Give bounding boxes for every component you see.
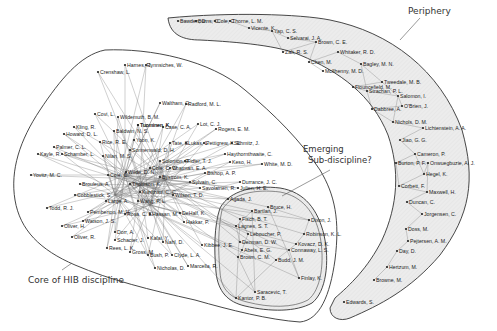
node-marker	[407, 240, 409, 242]
node-label: Case, C. A.	[165, 124, 191, 130]
node-marker	[137, 200, 139, 202]
node-marker	[159, 176, 161, 178]
node-label: Brown, C. E.	[318, 39, 347, 45]
node-label: Yoon, K.	[136, 137, 155, 143]
node-label: Schamber, L.	[64, 151, 95, 157]
node-marker	[179, 212, 181, 214]
node-marker	[397, 95, 399, 97]
node-marker	[159, 160, 161, 162]
node-marker	[343, 301, 345, 303]
node-label: Keso, H.	[232, 159, 252, 165]
node-marker	[308, 61, 310, 63]
node-marker	[185, 103, 187, 105]
node-label: Salomon, I.	[400, 93, 426, 99]
node-marker	[423, 173, 425, 175]
node-marker	[421, 213, 423, 215]
node-marker	[133, 139, 135, 141]
node-marker	[237, 187, 239, 189]
node-label: McIlhenny, M. D.	[325, 68, 364, 74]
node-marker	[251, 210, 253, 212]
node-label: Day, D.	[399, 248, 416, 254]
node-marker	[261, 163, 263, 165]
node-label: Pejtersen, A. M.	[410, 238, 447, 244]
core-label: Core of HIB discipline	[28, 275, 124, 285]
node-marker	[129, 251, 131, 253]
node-label: Radford, M. L.	[188, 101, 221, 107]
node-label: Yovitz, M. C.	[33, 172, 62, 178]
emerging-label-line2: Sub-discipline?	[308, 155, 372, 165]
node-marker	[366, 90, 368, 92]
node-label: Onwuegbuzie, A. J.	[430, 160, 475, 166]
node-marker	[46, 207, 48, 209]
node-label: Edwards, S.	[346, 299, 374, 305]
node-label: Clyde, L. A.	[174, 252, 201, 258]
node-marker	[184, 160, 186, 162]
node-marker	[79, 183, 81, 185]
node-marker	[107, 174, 109, 176]
node-marker	[37, 153, 39, 155]
node-label: Lagnes, S. T.	[238, 223, 268, 229]
node-marker	[295, 243, 297, 245]
node-label: Whitaker, R. D.	[340, 49, 375, 55]
node-label: Abels, E. G.	[244, 247, 272, 253]
node-label: Corbett, F.	[401, 183, 425, 189]
node-marker	[187, 265, 189, 267]
node-marker	[199, 187, 201, 189]
node-label: Agada, J.	[230, 196, 252, 202]
node-label: Watson, J. S.	[85, 218, 116, 224]
node-marker	[195, 20, 197, 22]
node-marker	[129, 149, 131, 151]
node-label: Denman, D. W.	[242, 239, 277, 245]
node-marker	[102, 155, 104, 157]
node-label: Cobblestick, S.	[77, 192, 112, 198]
node-label: Wildemuth, B. M.	[120, 114, 160, 120]
node-marker	[74, 194, 76, 196]
node-marker	[371, 108, 373, 110]
periphery-label: Periphery	[408, 6, 451, 16]
node-label: Julien, H. E.	[240, 185, 268, 191]
node-marker	[185, 142, 187, 144]
node-marker	[235, 297, 237, 299]
node-label: Nichols, D. M.	[395, 119, 427, 125]
periphery-callout-line	[400, 18, 420, 40]
emerging-label-line1: Emerging	[303, 144, 344, 154]
node-marker	[352, 86, 354, 88]
node-marker	[117, 116, 119, 118]
node-label: Bartlan, J.	[254, 208, 277, 214]
node-label: DeHalf, K.	[182, 210, 206, 216]
node-marker	[63, 133, 65, 135]
node-label: Chatman, E. A.	[172, 165, 207, 171]
node-marker	[241, 249, 243, 251]
node-marker	[169, 142, 171, 144]
node-marker	[106, 247, 108, 249]
node-marker	[169, 167, 171, 169]
node-label: Dorr, A.	[117, 229, 134, 235]
node-label: Palmer, C. L.	[56, 144, 86, 150]
core-callout-line	[62, 263, 72, 270]
node-marker	[239, 181, 241, 183]
node-label: Marcella, R.	[190, 263, 218, 269]
node-marker	[237, 256, 239, 258]
node-marker	[303, 233, 305, 235]
node-marker	[113, 130, 115, 132]
node-marker	[414, 153, 416, 155]
node-label: Large, A.	[108, 198, 129, 204]
node-label: Kayle, R.	[40, 151, 61, 157]
node-label: Connaway, L. S.	[291, 247, 329, 253]
node-label: Oliver, R.	[74, 234, 95, 240]
node-label: Duncan, C.	[409, 199, 435, 205]
node-label: Thorne, L. M.	[232, 18, 263, 24]
node-marker	[275, 259, 277, 261]
node-label: Leboucher, P.	[250, 231, 281, 237]
node-marker	[224, 153, 226, 155]
node-label: Howard, D. L.	[66, 131, 98, 137]
node-label: Bystrom, K.	[162, 174, 189, 180]
node-label: Robinson, K. L.	[306, 231, 341, 237]
node-label: Fisch, B. T.	[242, 216, 268, 222]
node-marker	[396, 250, 398, 252]
node-label: Burton, P. F.	[398, 160, 426, 166]
node-label: Oliver, H.	[64, 223, 85, 229]
node-marker	[87, 211, 89, 213]
node-label: Wilde, D. N.	[128, 169, 156, 175]
node-label: Bush, P.	[150, 252, 169, 258]
